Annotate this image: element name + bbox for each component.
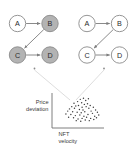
- scatter-point: [94, 115, 95, 116]
- y-axis-label: deviation: [26, 106, 48, 112]
- scatter-point: [77, 101, 78, 102]
- node-label-B: B: [48, 19, 53, 28]
- scatter-point: [95, 109, 96, 110]
- left-graph: ABCD: [9, 15, 58, 69]
- scatter-point: [85, 106, 86, 107]
- x-axis-label: NFT: [59, 131, 70, 137]
- scatter-point: [67, 110, 68, 111]
- scatter-point: [69, 108, 70, 109]
- scatter-point: [89, 120, 90, 121]
- scatter-point: [75, 115, 76, 116]
- scatter-point: [71, 106, 72, 107]
- node-label-C: C: [84, 51, 89, 60]
- y-axis-label: Price: [36, 99, 49, 105]
- scatter-point: [83, 115, 84, 116]
- diagram-canvas: ABCDABCD PricedeviationNFTvelocity: [0, 0, 140, 153]
- scatter-point: [86, 117, 87, 118]
- scatter-point: [80, 112, 81, 113]
- figure-root: ABCDABCD PricedeviationNFTvelocity: [0, 0, 140, 153]
- scatter-point: [79, 114, 80, 115]
- scatter-point: [89, 105, 90, 106]
- right-graph: ABCD: [79, 15, 128, 69]
- edge-B-C: [25, 29, 44, 48]
- node-label-A: A: [15, 19, 20, 28]
- scatter-point: [76, 120, 77, 121]
- scatter-point: [93, 119, 94, 120]
- scatter-point: [76, 112, 77, 113]
- scatter-point: [80, 99, 81, 100]
- scatter-point: [73, 117, 74, 118]
- node-label-A: A: [85, 19, 90, 28]
- graph-marker: [103, 68, 105, 70]
- scatter-point: [96, 117, 97, 118]
- scatter-point: [79, 109, 80, 110]
- scatter-point: [90, 118, 91, 119]
- scatter-point: [84, 104, 85, 105]
- scatter-point: [77, 118, 78, 119]
- right-connector: [76, 70, 104, 100]
- scatter-point: [75, 105, 76, 106]
- scatter-point: [85, 100, 86, 101]
- scatter-point: [83, 98, 84, 99]
- scatter-point: [73, 103, 74, 104]
- connector-lines: [35, 70, 105, 100]
- node-label-B: B: [117, 19, 122, 28]
- x-axis-label: velocity: [59, 138, 78, 144]
- graph-group: ABCDABCD: [9, 15, 127, 69]
- scatter-point: [90, 110, 91, 111]
- scatter-point: [78, 105, 79, 106]
- node-label-C: C: [15, 51, 20, 60]
- scatter-point: [74, 108, 75, 109]
- scatter-point: [81, 118, 82, 119]
- node-label-D: D: [47, 51, 52, 60]
- scatter-point: [82, 109, 83, 110]
- scatter-point: [93, 106, 94, 107]
- scatter-point: [88, 98, 89, 99]
- scatter-point: [81, 106, 82, 107]
- scatter-point: [70, 114, 71, 115]
- scatter-point: [87, 114, 88, 115]
- scatter-point: [80, 120, 81, 121]
- scatter-point: [68, 117, 69, 118]
- scatter-point: [92, 113, 93, 114]
- scatter-point: [81, 102, 82, 103]
- scatter-point: [88, 108, 89, 109]
- scatter-point: [72, 111, 73, 112]
- scatter-point: [84, 111, 85, 112]
- scatter-point: [97, 112, 98, 113]
- scatter-point: [85, 119, 86, 120]
- scatter-point: [65, 113, 66, 114]
- scatter-point: [98, 114, 99, 115]
- scatter-point: [87, 103, 88, 104]
- graph-marker: [34, 68, 36, 70]
- edge-B-C: [94, 29, 113, 48]
- node-label-D: D: [117, 51, 122, 60]
